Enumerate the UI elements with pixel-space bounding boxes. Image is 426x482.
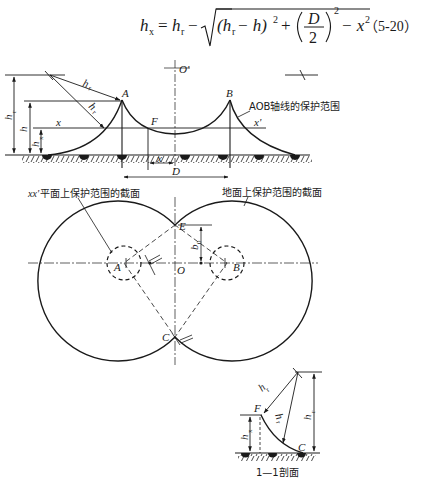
formula-lhs-sub: x bbox=[149, 26, 154, 37]
formula-frac-num: D bbox=[307, 10, 320, 27]
label-hx-height: h bbox=[29, 141, 41, 147]
formula-sq2: 2 bbox=[334, 5, 339, 16]
label-x-prime: x' bbox=[253, 116, 262, 128]
ground-callout-label: 地面上保护范围的截面 bbox=[222, 186, 322, 198]
plan-label-B: B bbox=[233, 261, 240, 273]
formula-inner-b: − h) bbox=[237, 16, 267, 35]
svg-text:r: r bbox=[87, 84, 93, 93]
label-A: A bbox=[121, 87, 129, 99]
formula-equals: = bbox=[158, 16, 168, 35]
plan-label-O: O bbox=[177, 264, 185, 276]
svg-text:0: 0 bbox=[195, 240, 203, 244]
label-D-dim: D bbox=[171, 165, 180, 177]
formula-lhs: h bbox=[140, 16, 149, 35]
formula-minus-x: − x bbox=[341, 16, 365, 35]
xx-callout-prefix: xx' bbox=[27, 188, 40, 199]
svg-text:r: r bbox=[274, 420, 283, 426]
plan-view bbox=[28, 197, 318, 365]
section-label-F: F bbox=[253, 402, 261, 414]
formula-plus: + bbox=[281, 16, 291, 35]
label-hr-height: h bbox=[2, 114, 14, 120]
section-label-C: C bbox=[298, 441, 306, 453]
formula-inner-a: (h bbox=[217, 16, 231, 35]
formula-term1: h bbox=[172, 16, 181, 35]
section-cut-mark-top bbox=[145, 255, 155, 275]
plan-label-A: A bbox=[113, 261, 121, 273]
plan-labels: xx' 平面上保护范围的截面 地面上保护范围的截面 A B O E C b 0 bbox=[27, 186, 322, 343]
left-ground-protection-arc bbox=[38, 201, 175, 361]
formula-frac-den: 2 bbox=[309, 29, 317, 46]
ground-hatch bbox=[22, 156, 312, 163]
svg-text:r: r bbox=[264, 385, 271, 393]
section-title: 1—1剖面 bbox=[256, 466, 299, 478]
section-label-hr-height: h bbox=[301, 414, 313, 420]
label-B: B bbox=[226, 87, 233, 99]
label-O-prime: O' bbox=[179, 63, 190, 75]
lightning-protection-diagram: h x = h r − (h r − h) 2 + D 2 2 − x 2 （5… bbox=[0, 0, 426, 482]
equation-number: （5-20） bbox=[364, 19, 418, 34]
formula-minus: − bbox=[188, 16, 198, 35]
plan-label-C: C bbox=[162, 331, 170, 343]
svg-text:x: x bbox=[37, 136, 45, 140]
section-label-hx-height: h bbox=[238, 434, 250, 440]
middle-protection-curve bbox=[122, 100, 230, 134]
svg-text:r: r bbox=[309, 410, 317, 413]
plan-label-E: E bbox=[178, 220, 186, 232]
label-x-dim: x bbox=[156, 152, 162, 164]
protection-rhombus bbox=[124, 225, 227, 337]
xx-callout-label: 平面上保护范围的截面 bbox=[40, 187, 140, 199]
xx-callout-leader bbox=[78, 198, 112, 253]
formula-5-20: h x = h r − (h r − h) 2 + D 2 2 − x 2 （5… bbox=[140, 5, 418, 46]
label-x: x bbox=[55, 116, 61, 128]
svg-text:x: x bbox=[246, 429, 254, 433]
formula-term1-sub: r bbox=[181, 26, 185, 37]
aob-callout-label: AOB轴线的保护范围 bbox=[249, 100, 340, 112]
formula-inner-a-sub: r bbox=[232, 26, 236, 37]
label-h-height: h bbox=[17, 126, 29, 132]
formula-sq1: 2 bbox=[273, 14, 278, 25]
label-F: F bbox=[150, 115, 158, 127]
section-hr-radius-to-curve bbox=[283, 372, 298, 443]
